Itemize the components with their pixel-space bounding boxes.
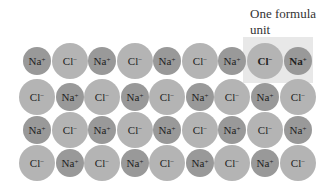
ion-symbol: Cl [193, 55, 203, 67]
ion-charge: + [74, 158, 78, 166]
ion-charge: + [303, 56, 307, 64]
ion-charge: − [170, 158, 174, 166]
chloride-ion: Cl− [84, 79, 120, 115]
ion-symbol: Cl [63, 55, 73, 67]
ion-symbol: Na [29, 124, 42, 136]
ion-symbol: Cl [128, 55, 138, 67]
ion-symbol: Na [257, 91, 270, 103]
ion-charge: − [170, 92, 174, 100]
ion-charge: − [138, 125, 142, 133]
ion-symbol: Na [94, 124, 107, 136]
sodium-ion: Na+ [56, 83, 84, 111]
chloride-ion: Cl− [117, 112, 153, 148]
ion-symbol: Na [159, 124, 172, 136]
ion-symbol: Cl [225, 91, 235, 103]
ion-charge: + [171, 56, 175, 64]
ion-charge: + [302, 125, 306, 133]
ion-charge: + [269, 92, 273, 100]
ion-symbol: Cl [291, 91, 301, 103]
ion-charge: − [203, 125, 207, 133]
sodium-ion: Na+ [153, 116, 181, 144]
chloride-ion: Cl− [182, 112, 218, 148]
ion-symbol: Na [29, 55, 42, 67]
ion-charge: + [74, 92, 78, 100]
sodium-ion: Na+ [56, 149, 84, 177]
chloride-ion: Cl− [280, 145, 316, 181]
ion-charge: + [139, 92, 143, 100]
ion-symbol: Cl [291, 157, 301, 169]
ion-symbol: Na [159, 55, 172, 67]
ion-charge: − [105, 92, 109, 100]
ion-charge: + [236, 125, 240, 133]
ion-symbol: Cl [258, 124, 268, 136]
ion-symbol: Cl [95, 91, 105, 103]
ion-charge: + [139, 158, 143, 166]
ion-charge: + [106, 56, 110, 64]
label-line-2: unit [250, 22, 316, 38]
chloride-ion: Cl− [149, 79, 185, 115]
ion-charge: − [235, 158, 239, 166]
ion-charge: − [203, 56, 207, 64]
ion-charge: + [204, 158, 208, 166]
ion-symbol: Cl [160, 91, 170, 103]
ion-symbol: Na [289, 55, 302, 67]
chloride-ion: Cl− [149, 145, 185, 181]
ion-symbol: Cl [30, 157, 40, 169]
ion-symbol: Cl [30, 91, 40, 103]
ion-symbol: Cl [128, 124, 138, 136]
chloride-ion: Cl− [214, 79, 250, 115]
sodium-ion: Na+ [186, 83, 214, 111]
ion-symbol: Cl [160, 157, 170, 169]
sodium-ion: Na+ [218, 116, 246, 144]
chloride-ion: Cl− [117, 43, 153, 79]
ion-symbol: Na [257, 157, 270, 169]
chloride-ion: Cl− [19, 145, 55, 181]
ion-charge: + [106, 125, 110, 133]
sodium-ion: Na+ [153, 47, 181, 75]
ion-charge: + [204, 92, 208, 100]
ion-symbol: Cl [225, 157, 235, 169]
sodium-ion: Na+ [284, 47, 312, 75]
chloride-ion: Cl− [52, 43, 88, 79]
ion-charge: − [301, 158, 305, 166]
ion-charge: − [105, 158, 109, 166]
ion-symbol: Cl [95, 157, 105, 169]
ion-symbol: Na [62, 91, 75, 103]
sodium-ion: Na+ [251, 83, 279, 111]
ion-charge: + [236, 56, 240, 64]
sodium-ion: Na+ [218, 47, 246, 75]
ion-charge: − [301, 92, 305, 100]
chloride-ion: Cl− [84, 145, 120, 181]
ion-symbol: Na [192, 157, 205, 169]
chloride-ion: Cl− [52, 112, 88, 148]
ion-symbol: Na [192, 91, 205, 103]
ion-charge: − [138, 56, 142, 64]
chloride-ion: Cl− [247, 112, 283, 148]
ion-symbol: Cl [63, 124, 73, 136]
ion-symbol: Na [62, 157, 75, 169]
ion-charge: − [268, 125, 272, 133]
ion-symbol: Na [94, 55, 107, 67]
ion-charge: + [41, 56, 45, 64]
ion-symbol: Na [127, 91, 140, 103]
label-line-1: One formula [250, 6, 316, 22]
formula-unit-label: One formula unit [250, 6, 316, 38]
chloride-ion: Cl− [19, 79, 55, 115]
chloride-ion: Cl− [280, 79, 316, 115]
sodium-ion: Na+ [88, 47, 116, 75]
ion-charge: − [73, 125, 77, 133]
ion-charge: − [269, 56, 273, 64]
ion-symbol: Na [290, 124, 303, 136]
ion-symbol: Na [224, 124, 237, 136]
ion-symbol: Cl [258, 55, 269, 67]
sodium-ion: Na+ [121, 83, 149, 111]
ion-charge: − [73, 56, 77, 64]
ion-symbol: Cl [193, 124, 203, 136]
chloride-ion: Cl− [247, 43, 283, 79]
sodium-ion: Na+ [284, 116, 312, 144]
ion-charge: − [235, 92, 239, 100]
ion-symbol: Na [127, 157, 140, 169]
ion-charge: − [40, 92, 44, 100]
chloride-ion: Cl− [214, 145, 250, 181]
sodium-ion: Na+ [121, 149, 149, 177]
